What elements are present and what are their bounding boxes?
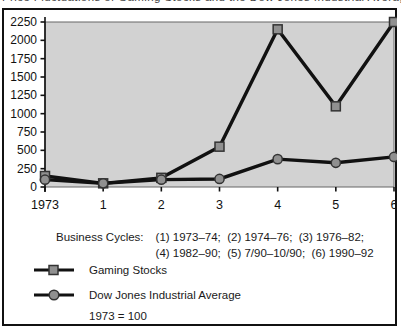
legend-item-gaming-stocks: Gaming Stocks (33, 264, 167, 276)
data-point-dow-jones-industrial-average (99, 179, 108, 188)
y-tick-label: 0 (30, 180, 37, 194)
x-tick-label: 5 (332, 198, 339, 212)
x-tick-label: 1973 (31, 198, 59, 212)
clipped-page-header-label: Price Fluctuations of Gaming Stocks and … (2, 0, 401, 3)
x-tick-label: 1 (100, 198, 107, 212)
y-tick-label: 1250 (10, 88, 37, 102)
line-chart: 0250500750100012501500175020002250197312… (4, 10, 397, 215)
y-tick-label: 250 (17, 162, 37, 176)
legend-label-gaming-stocks: Gaming Stocks (89, 264, 167, 276)
y-tick-label: 1000 (10, 107, 37, 121)
x-tick-label: 2 (158, 198, 165, 212)
caption-line-1: (1) 1973–74; (2) 1974–76; (3) 1976–82; (156, 229, 374, 245)
data-point-dow-jones-industrial-average (389, 152, 397, 161)
data-point-gaming-stocks (273, 25, 282, 34)
y-tick-label: 1750 (10, 52, 37, 66)
data-point-dow-jones-industrial-average (157, 175, 166, 184)
data-point-dow-jones-industrial-average (215, 174, 224, 183)
legend-item-dow-jones: Dow Jones Industrial Average (33, 289, 241, 301)
data-point-dow-jones-industrial-average (273, 155, 282, 164)
x-tick-label: 6 (391, 198, 397, 212)
x-tick-label: 4 (274, 198, 281, 212)
baseline-note: 1973 = 100 (89, 310, 147, 322)
data-point-dow-jones-industrial-average (331, 158, 340, 167)
data-point-gaming-stocks (390, 18, 398, 27)
y-tick-label: 1500 (10, 70, 37, 84)
data-point-gaming-stocks (331, 102, 340, 111)
data-point-dow-jones-industrial-average (40, 175, 49, 184)
clipped-page-header-text: Price Fluctuations of Gaming Stocks and … (2, 0, 401, 8)
y-tick-label: 750 (17, 125, 37, 139)
y-tick-label: 2250 (10, 15, 37, 29)
caption-label: Business Cycles: (56, 229, 144, 261)
caption-line-2: (4) 1982–90; (5) 7/90–10/90; (6) 1990–92 (156, 245, 374, 261)
business-cycles-caption: Business Cycles: (1) 1973–74; (2) 1974–7… (56, 229, 374, 261)
data-point-gaming-stocks (215, 142, 224, 151)
legend-label-dow-jones: Dow Jones Industrial Average (89, 289, 241, 301)
circle-marker-icon (33, 289, 75, 301)
y-tick-label: 2000 (10, 33, 37, 47)
figure-box: 0250500750100012501500175020002250197312… (2, 8, 397, 326)
y-tick-label: 500 (17, 143, 37, 157)
x-tick-label: 3 (216, 198, 223, 212)
square-marker-icon (33, 264, 75, 276)
